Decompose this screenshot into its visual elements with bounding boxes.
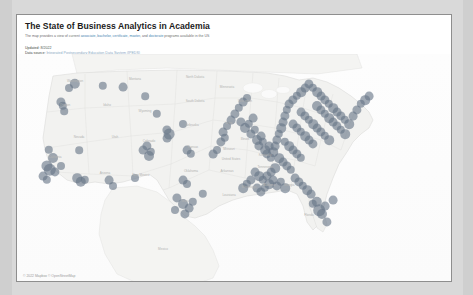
subtitle-suffix: programs available in the US [163,34,209,38]
document-card: The State of Business Analytics in Acade… [16,14,452,282]
document-header: The State of Business Analytics in Acade… [17,15,452,56]
subtitle-keyword-doctorate: doctorate [149,34,164,38]
screenshot-viewport: The State of Business Analytics in Acade… [0,0,473,295]
page-title: The State of Business Analytics in Acade… [25,21,445,32]
metadata-updated-label: Updated: [25,46,40,50]
map-basemap [17,54,452,282]
map-container[interactable]: WashingtonMontanaNorth DakotaMinnesotaOr… [17,54,452,282]
subtitle-prefix: The map provides a view of current [25,34,81,38]
page-background-left [0,0,12,295]
metadata-updated-value: 8/2022 [40,46,52,50]
subtitle-middle: , and [140,34,149,38]
subtitle-keyword-degrees: associate, bachelor, certificate, master [81,34,140,38]
page-subtitle: The map provides a view of current assoc… [25,34,445,39]
page-background-right [463,0,473,295]
map-attribution[interactable]: © 2022 Mapbox © OpenStreetMap [23,274,75,279]
